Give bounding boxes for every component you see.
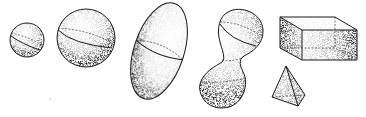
large-sphere (57, 9, 115, 67)
pyramid (272, 66, 305, 106)
ellipsoid (120, 0, 198, 106)
figure-canvas: Stippled line drawings of 3D solids (0, 0, 366, 117)
box (280, 17, 357, 60)
peanut (200, 9, 263, 108)
shapes-illustration (0, 0, 366, 117)
speck (49, 98, 51, 100)
small-sphere (10, 23, 44, 57)
